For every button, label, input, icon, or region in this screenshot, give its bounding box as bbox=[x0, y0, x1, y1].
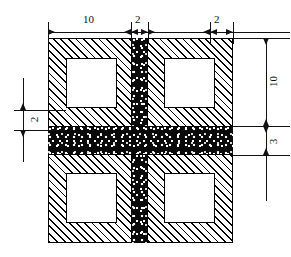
right-3-label: 3 bbox=[268, 136, 279, 148]
top-mid-arrow-right bbox=[203, 29, 210, 35]
ext-line-right-mid-b bbox=[233, 155, 290, 156]
top-2-right-arrow-a bbox=[210, 29, 217, 35]
void-top-left bbox=[66, 58, 117, 108]
top-2-right-arrow-b bbox=[226, 29, 233, 35]
left-dim-spine bbox=[23, 78, 24, 162]
right-10-label: 10 bbox=[268, 75, 279, 89]
stippled-horizontal-band bbox=[48, 126, 233, 155]
ext-line-right-top bbox=[233, 38, 290, 39]
right-10-arrow-top bbox=[263, 38, 269, 45]
right-3-arrow-top bbox=[263, 126, 269, 133]
void-bottom-left bbox=[66, 173, 117, 223]
ext-line-top-right bbox=[233, 22, 234, 44]
ext-line-right-mid-a bbox=[233, 126, 290, 127]
right-3-arrow-bottom bbox=[263, 148, 269, 155]
top-10-arrow-right bbox=[124, 29, 131, 35]
top-2-right-label: 2 bbox=[214, 14, 220, 25]
left-2-label: 2 bbox=[29, 114, 40, 126]
top-witness-line bbox=[48, 32, 290, 33]
top-mid-arrow-left bbox=[148, 29, 155, 35]
top-10-arrow-left bbox=[48, 29, 55, 35]
top-2-left-arrow-b bbox=[141, 29, 148, 35]
void-bottom-right bbox=[164, 173, 215, 223]
right-10-arrow-bottom bbox=[263, 119, 269, 126]
left-2-arrow-top bbox=[20, 103, 26, 110]
top-10-label: 10 bbox=[83, 14, 94, 25]
top-2-left-arrow-a bbox=[131, 29, 138, 35]
top-2-left-label: 2 bbox=[135, 14, 141, 25]
drawing-canvas: 10 2 2 10 3 2 bbox=[0, 0, 291, 257]
left-2-arrow-bottom bbox=[20, 130, 26, 137]
void-top-right bbox=[164, 58, 215, 108]
ext-line-left-top bbox=[14, 110, 66, 111]
